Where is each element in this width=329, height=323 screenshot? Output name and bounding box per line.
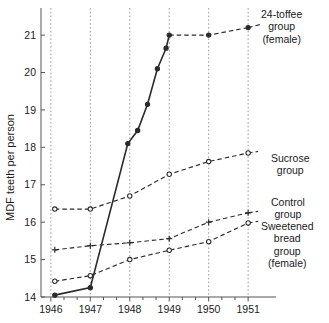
- legend-sweetened-bread-line-1: bread: [261, 232, 314, 244]
- x-tick-label-1951: 1951: [236, 303, 260, 315]
- data-point: [88, 207, 92, 211]
- data-point: [88, 273, 92, 277]
- data-point: [128, 194, 132, 198]
- x-tick-label-1948: 1948: [118, 303, 142, 315]
- data-point: [206, 239, 210, 243]
- data-point: [246, 26, 250, 30]
- data-point: [53, 279, 57, 283]
- y-tick-label-15: 15: [24, 253, 36, 265]
- data-point: [246, 221, 250, 225]
- chart-container: 1415161718192021194619471948194919501951…: [0, 0, 329, 323]
- legend-24-toffee-line-2: (female): [261, 33, 302, 45]
- data-point: [164, 46, 168, 50]
- series-line-1: [55, 153, 248, 209]
- x-tick-label-1947: 1947: [79, 303, 103, 315]
- legend-label-24-toffee-group: 24-toffeegroup(female): [261, 8, 302, 45]
- legend-label-sucrose-group: Sucrosegroup: [271, 152, 310, 177]
- legend-label-sweetened-bread-group: Sweetenedbreadgroup(female): [261, 220, 314, 270]
- legend-sweetened-bread-line-0: Sweetened: [261, 220, 314, 232]
- legend-sucrose-line-0: Sucrose: [271, 152, 310, 164]
- data-point: [53, 207, 57, 211]
- x-tick-label-1949: 1949: [158, 303, 182, 315]
- series-line-24-toffee-solid: [55, 35, 169, 295]
- y-tick-label-21: 21: [24, 29, 36, 41]
- legend-control-line-0: Control: [271, 196, 305, 208]
- data-point: [128, 257, 132, 261]
- legend-24-toffee-line-0: 24-toffee: [261, 8, 302, 20]
- x-tick-label-1946: 1946: [39, 303, 63, 315]
- legend-sucrose-line-1: group: [271, 164, 310, 176]
- y-tick-label-17: 17: [24, 178, 36, 190]
- legend-24-toffee-line-1: group: [261, 20, 302, 32]
- data-point: [206, 159, 210, 163]
- y-tick-label-16: 16: [24, 216, 36, 228]
- data-point: [246, 151, 250, 155]
- y-axis-title: MDF teeth per person: [4, 114, 16, 221]
- legend-control-line-1: group: [271, 208, 305, 220]
- data-point: [145, 102, 149, 106]
- data-point: [88, 286, 92, 290]
- data-point: [167, 172, 171, 176]
- y-tick-label-14: 14: [24, 291, 36, 303]
- data-point: [167, 33, 171, 37]
- series-line-3: [55, 223, 248, 281]
- x-tick-label-1950: 1950: [197, 303, 221, 315]
- data-point: [155, 67, 159, 71]
- data-point: [53, 293, 57, 297]
- legend-label-control-group: Controlgroup: [271, 196, 305, 221]
- data-point: [167, 248, 171, 252]
- data-point: [136, 128, 140, 132]
- legend-sweetened-bread-line-2: group: [261, 245, 314, 257]
- data-point: [126, 141, 130, 145]
- y-tick-label-20: 20: [24, 66, 36, 78]
- y-tick-label-18: 18: [24, 141, 36, 153]
- data-point: [207, 33, 211, 37]
- series-line-2: [55, 213, 248, 250]
- legend-sweetened-bread-line-3: (female): [261, 257, 314, 269]
- y-tick-label-19: 19: [24, 104, 36, 116]
